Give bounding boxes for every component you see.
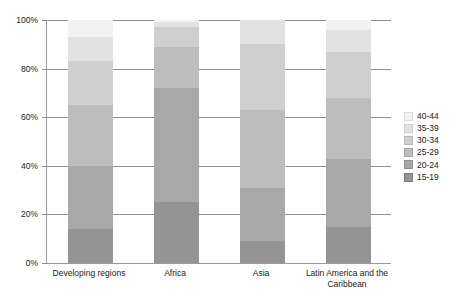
bar-segment-35-39 <box>240 20 285 44</box>
stacked-bar-chart: 0%20%40%60%80%100% Developing regionsAfr… <box>0 0 469 304</box>
legend-label: 20-24 <box>417 161 439 170</box>
legend-item: 15-19 <box>404 171 466 183</box>
bar-segment-25-29 <box>68 105 113 166</box>
legend-swatch <box>404 112 413 121</box>
bar-stack <box>240 20 285 263</box>
legend-swatch <box>404 136 413 145</box>
bar-segment-20-24 <box>68 166 113 229</box>
bar-segment-15-19 <box>154 202 199 263</box>
legend-item: 35-39 <box>404 122 466 134</box>
bar-segment-35-39 <box>68 37 113 61</box>
legend-swatch <box>404 124 413 133</box>
legend-swatch <box>404 160 413 169</box>
y-axis-tick <box>42 117 47 118</box>
y-axis-tick <box>42 214 47 215</box>
bar-segment-35-39 <box>326 30 371 52</box>
bar-segment-30-34 <box>326 52 371 98</box>
x-axis-category-label: Latin America and the Caribbean <box>304 268 390 289</box>
legend-label: 35-39 <box>417 124 439 133</box>
bar-segment-35-39 <box>154 22 199 27</box>
bar-segment-15-19 <box>240 241 285 263</box>
y-axis-tick <box>42 263 47 264</box>
bar-segment-15-19 <box>326 227 371 263</box>
bar-stack <box>326 20 371 263</box>
bar-segment-25-29 <box>326 98 371 159</box>
y-axis-tick <box>42 69 47 70</box>
bar-stack <box>68 20 113 263</box>
legend-item: 40-44 <box>404 110 466 122</box>
bar-segment-40-44 <box>326 20 371 30</box>
y-axis-tick-label: 20% <box>0 210 38 219</box>
x-axis-category-label: Developing regions <box>46 268 132 279</box>
legend-label: 25-29 <box>417 148 439 157</box>
bar-segment-30-34 <box>154 27 199 46</box>
legend-item: 25-29 <box>404 147 466 159</box>
legend-item: 20-24 <box>404 159 466 171</box>
legend-item: 30-34 <box>404 134 466 146</box>
bar-segment-15-19 <box>68 229 113 263</box>
bar-stack <box>154 20 199 263</box>
x-axis-category-label: Asia <box>218 268 304 279</box>
y-axis-tick <box>42 20 47 21</box>
y-axis-tick-label: 60% <box>0 113 38 122</box>
bar-segment-25-29 <box>154 47 199 88</box>
y-axis-tick-label: 40% <box>0 162 38 171</box>
y-axis-tick-label: 0% <box>0 259 38 268</box>
legend-label: 30-34 <box>417 136 439 145</box>
y-axis-tick <box>42 166 47 167</box>
bar-segment-20-24 <box>240 188 285 241</box>
chart-legend: 40-4435-3930-3425-2920-2415-19 <box>404 110 466 183</box>
legend-label: 40-44 <box>417 112 439 121</box>
legend-swatch <box>404 173 413 182</box>
bar-segment-25-29 <box>240 110 285 188</box>
bar-segment-20-24 <box>154 88 199 202</box>
y-axis-tick-label: 80% <box>0 64 38 73</box>
x-axis-category-label: Africa <box>132 268 218 279</box>
bar-segment-30-34 <box>68 61 113 105</box>
legend-swatch <box>404 148 413 157</box>
bar-segment-20-24 <box>326 159 371 227</box>
bar-segment-40-44 <box>68 20 113 37</box>
bar-segment-30-34 <box>240 44 285 110</box>
plot-area <box>46 20 391 264</box>
bar-segment-40-44 <box>154 20 199 22</box>
y-axis-tick-label: 100% <box>0 16 38 25</box>
legend-label: 15-19 <box>417 173 439 182</box>
